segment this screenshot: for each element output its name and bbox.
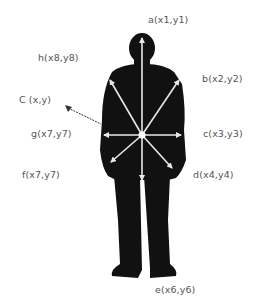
label-center: C (x,y) <box>19 94 51 105</box>
label-d: d(x4,y4) <box>193 169 234 180</box>
center-pointer-line <box>68 108 101 124</box>
person-silhouette <box>100 33 186 278</box>
label-e: e(x6,y6) <box>155 284 195 295</box>
label-g: g(x7,y7) <box>31 128 72 139</box>
label-a: a(x1,y1) <box>148 14 188 25</box>
center-point <box>139 132 146 139</box>
diagram-canvas: a(x1,y1) h(x8,y8) b(x2,y2) C (x,y) g(x7,… <box>0 0 260 306</box>
label-f: f(x7,y7) <box>22 169 60 180</box>
label-h: h(x8,y8) <box>38 52 79 63</box>
label-b: b(x2,y2) <box>202 73 243 84</box>
center-pointer-arrowhead <box>65 105 72 112</box>
label-c: c(x3,y3) <box>203 128 243 139</box>
human-silhouette-figure <box>0 0 260 306</box>
